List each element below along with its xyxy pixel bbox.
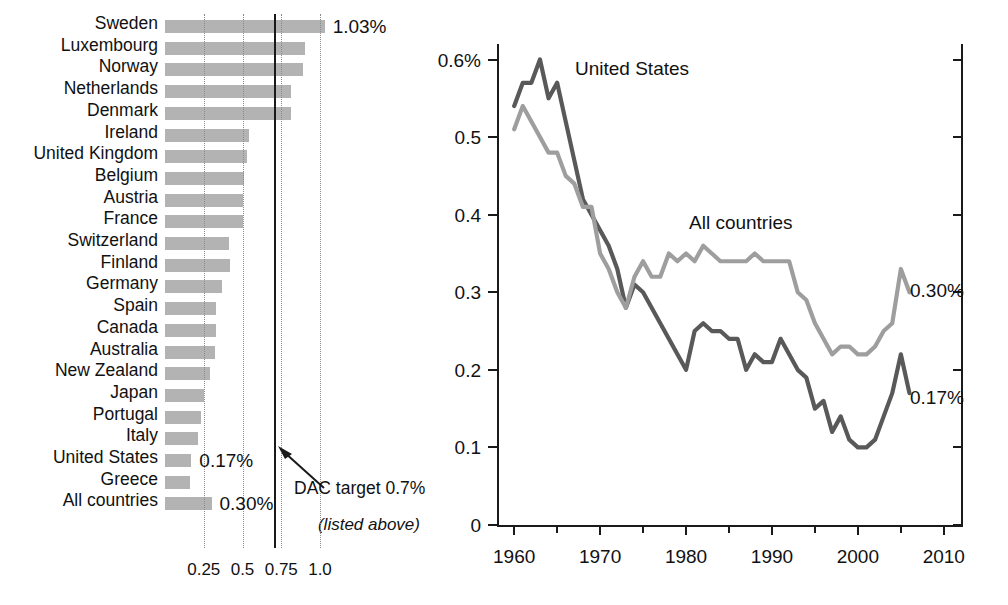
bar-label-portugal: Portugal [0, 406, 158, 424]
bar-label-ireland: Ireland [0, 124, 158, 142]
bar-label-united-states: United States [0, 449, 158, 467]
bar-label-sweden: Sweden [0, 15, 158, 33]
bar-australia [165, 346, 215, 359]
bar-italy [165, 432, 198, 445]
bar-label-united-kingdom: United Kingdom [0, 145, 158, 163]
bar-label-greece: Greece [0, 471, 158, 489]
bar-japan [165, 389, 204, 402]
line-chart-panel: 00.10.20.30.40.50.6% 1960197019801990200… [420, 0, 1008, 605]
bar-chart-panel: SwedenLuxembourgNorwayNetherlandsDenmark… [0, 0, 420, 605]
bar-label-austria: Austria [0, 189, 158, 207]
bar-label-australia: Australia [0, 341, 158, 359]
bar-label-spain: Spain [0, 297, 158, 315]
bar-value-united-states: 0.17% [199, 450, 253, 472]
bar-label-all-countries: All countries [0, 492, 158, 510]
bar-sweden [165, 20, 325, 33]
bar-label-new-zealand: New Zealand [0, 362, 158, 380]
bar-luxembourg [165, 42, 305, 55]
bar-netherlands [165, 85, 291, 98]
bar-label-switzerland: Switzerland [0, 232, 158, 250]
bar-label-canada: Canada [0, 319, 158, 337]
bar-denmark [165, 107, 291, 120]
dac-target-label: DAC target 0.7% [294, 478, 425, 499]
bar-united-kingdom [165, 150, 247, 163]
bar-value-all-countries: 0.30% [220, 493, 274, 515]
bar-germany [165, 280, 222, 293]
figure-root: SwedenLuxembourgNorwayNetherlandsDenmark… [0, 0, 1008, 605]
bar-label-subtitle: (listed above) [262, 515, 420, 535]
bar-label-netherlands: Netherlands [0, 80, 158, 98]
bar-united-states [165, 454, 191, 467]
series-label-all-countries: All countries [689, 212, 793, 234]
bar-switzerland [165, 237, 229, 250]
end-label-united-states: 0.17% [910, 387, 964, 409]
bar-spain [165, 302, 216, 315]
bar-ireland [165, 129, 249, 142]
bar-canada [165, 324, 216, 337]
bar-finland [165, 259, 230, 272]
bar-label-italy: Italy [0, 427, 158, 445]
bar-portugal [165, 411, 201, 424]
line-chart-plot [420, 0, 1008, 605]
bar-label-finland: Finland [0, 254, 158, 272]
bar-label-denmark: Denmark [0, 102, 158, 120]
x-tick-1-0: 1.0 [296, 560, 344, 580]
bar-label-belgium: Belgium [0, 167, 158, 185]
bar-label-france: France [0, 210, 158, 228]
bar-label-norway: Norway [0, 58, 158, 76]
bar-label-japan: Japan [0, 384, 158, 402]
bar-value-sweden: 1.03% [333, 16, 387, 38]
end-label-all-countries: 0.30% [910, 280, 964, 302]
bar-greece [165, 476, 190, 489]
bar-label-luxembourg: Luxembourg [0, 37, 158, 55]
bar-label-germany: Germany [0, 275, 158, 293]
series-label-united-states: United States [575, 58, 689, 80]
